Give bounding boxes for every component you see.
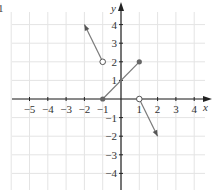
y-axis-arrow-icon xyxy=(118,2,124,11)
x-tick-label: −5 xyxy=(24,103,36,115)
x-tick-label: −4 xyxy=(42,103,54,115)
closed-point-icon xyxy=(100,96,105,101)
x-tick-label: −2 xyxy=(79,103,91,115)
open-point-icon xyxy=(137,96,143,102)
x-tick-label: 1 xyxy=(137,103,143,115)
y-axis-label: y xyxy=(110,2,116,14)
y-tick-label: 2 xyxy=(112,56,118,68)
corner-label: 1 xyxy=(0,2,4,14)
x-tick-label: 4 xyxy=(191,103,197,115)
x-tick-label: 2 xyxy=(155,103,161,115)
y-tick-label: 4 xyxy=(112,19,118,31)
open-point-icon xyxy=(100,59,106,65)
x-axis-label: x xyxy=(202,101,208,113)
y-tick-label: −4 xyxy=(105,167,117,179)
x-tick-label: −3 xyxy=(60,103,72,115)
y-tick-label: 1 xyxy=(112,74,118,86)
tick-labels: −5−4−3−2−11234−4−3−2−11234xy xyxy=(24,2,208,179)
y-tick-label: −3 xyxy=(105,149,117,161)
y-tick-label: −2 xyxy=(105,130,117,142)
closed-point-icon xyxy=(137,59,142,64)
y-tick-label: 3 xyxy=(112,37,118,49)
y-tick-label: −1 xyxy=(105,112,117,124)
function-graph: −5−4−3−2−11234−4−3−2−11234xy xyxy=(0,0,214,193)
x-tick-label: 3 xyxy=(173,103,179,115)
